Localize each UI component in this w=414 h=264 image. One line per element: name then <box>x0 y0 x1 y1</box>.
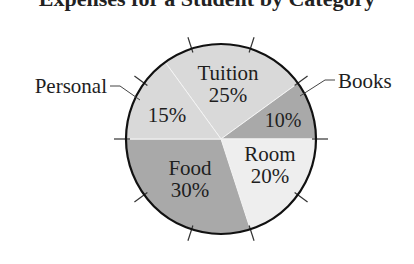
room-percent: 20% <box>251 164 290 188</box>
food-percent: 30% <box>171 178 210 202</box>
books-label: Books <box>338 69 392 93</box>
personal-label: Personal <box>35 74 107 98</box>
books-percent: 10% <box>265 109 302 131</box>
room-label: Room <box>244 142 295 166</box>
tuition-label: Tuition <box>197 61 259 85</box>
personal-percent: 15% <box>148 103 187 127</box>
pie-chart: Tuition 25% 10% Books Room 20% Food 30% … <box>0 0 414 264</box>
food-label: Food <box>168 156 212 180</box>
tuition-percent: 25% <box>209 83 248 107</box>
